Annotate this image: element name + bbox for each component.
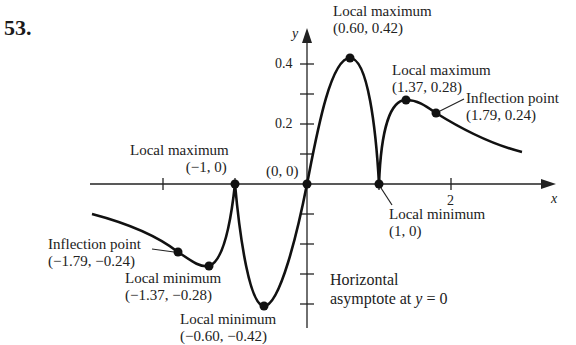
point-local-max-neg1 <box>231 180 240 189</box>
point-local-max-137 <box>402 96 411 105</box>
x-axis-arrow-icon <box>541 179 556 189</box>
point-local-min-1 <box>375 180 384 189</box>
annotation-inflection-neg179: Inflection point (−1.79, −0.24) <box>48 236 141 270</box>
leader-line-infl-179 <box>440 99 464 111</box>
annotation-coords: (1, 0) <box>389 223 485 240</box>
asymptote-prefix: asymptote at <box>330 290 415 307</box>
leader-line-min-1 <box>381 188 392 205</box>
annotation-title: Local minimum <box>125 270 221 287</box>
leader-line-infl-neg179 <box>152 249 174 252</box>
point-inflection-179 <box>432 109 441 118</box>
asymptote-line2: asymptote at y = 0 <box>330 289 447 308</box>
point-inflection-neg179 <box>174 248 183 257</box>
asymptote-line1: Horizontal <box>330 270 447 289</box>
point-origin <box>303 180 312 189</box>
annotation-coords: (−1.37, −0.28) <box>125 287 221 304</box>
annotation-coords: (−1, 0) <box>130 159 229 176</box>
annotation-local-max-neg1: Local maximum (−1, 0) <box>130 142 229 176</box>
annotation-local-min-neg060: Local minimum (−0.60, −0.42) <box>180 311 276 345</box>
annotation-title: Local minimum <box>180 311 276 328</box>
annotation-title: Local maximum <box>130 142 229 159</box>
asymptote-suffix: = 0 <box>422 290 447 307</box>
x-axis <box>90 178 556 190</box>
point-local-min-neg060 <box>260 302 269 311</box>
y-axis-label: y <box>292 26 298 42</box>
annotation-title: Inflection point <box>48 236 141 253</box>
annotation-coords: (1.79, 0.24) <box>466 107 559 124</box>
annotation-coords: (0.60, 0.42) <box>333 20 432 37</box>
x-axis-label: x <box>551 191 557 207</box>
y-tick-label-04: 0.4 <box>275 56 293 72</box>
annotation-local-max-060: Local maximum (0.60, 0.42) <box>333 3 432 37</box>
annotation-coords: (−1.79, −0.24) <box>48 253 141 270</box>
annotation-title: Local maximum <box>333 3 432 20</box>
point-local-max-060 <box>346 54 355 63</box>
annotation-title: Local maximum <box>392 62 491 79</box>
annotation-origin: (0, 0) <box>266 163 299 180</box>
annotation-title: Inflection point <box>466 90 559 107</box>
y-axis-arrow-icon <box>302 28 312 43</box>
annotation-asymptote: Horizontal asymptote at y = 0 <box>330 270 447 308</box>
annotation-local-min-1: Local minimum (1, 0) <box>389 206 485 240</box>
annotation-local-min-neg137: Local minimum (−1.37, −0.28) <box>125 270 221 304</box>
y-tick-label-02: 0.2 <box>275 116 293 132</box>
annotation-inflection-179: Inflection point (1.79, 0.24) <box>466 90 559 124</box>
annotation-coords: (−0.60, −0.42) <box>180 328 276 345</box>
annotation-title: Local minimum <box>389 206 485 223</box>
